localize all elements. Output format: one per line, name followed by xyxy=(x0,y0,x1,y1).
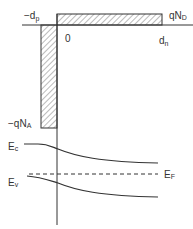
donor-charge-block xyxy=(57,14,162,25)
Ec-label: Ec xyxy=(8,141,19,152)
Ev-label: Ev xyxy=(8,177,19,188)
dn-label: dn xyxy=(159,35,169,47)
neg-dp-label: −dp xyxy=(24,10,39,23)
zero-label: 0 xyxy=(65,33,71,44)
valence-band-curve xyxy=(27,176,158,197)
conduction-band-curve xyxy=(24,144,158,163)
neg-qNA-label: −qNA xyxy=(8,118,32,129)
pn-junction-diagram: −dp 0 dn qND −qNA Ec Ev EF xyxy=(0,0,193,229)
acceptor-charge-block xyxy=(41,25,57,128)
EF-label: EF xyxy=(164,169,175,180)
qND-label: qND xyxy=(169,10,187,21)
